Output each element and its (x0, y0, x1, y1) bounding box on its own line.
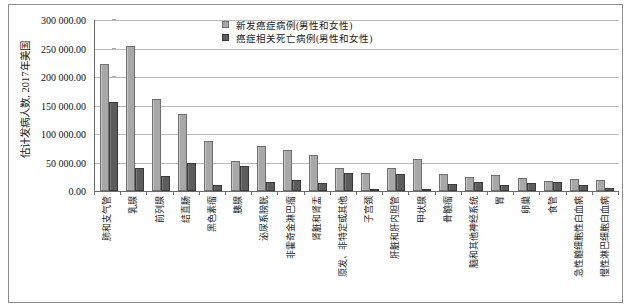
y-axis-tick-label: 150 000.00 (41, 100, 86, 111)
legend-swatch-icon (222, 21, 229, 28)
bar-group (253, 20, 279, 191)
x-axis-category-label: 非霍奇金淋巴瘤 (286, 196, 296, 259)
bar-group (514, 20, 540, 191)
y-axis-tick-label: 0.00 (69, 186, 87, 197)
bar-group (540, 20, 566, 191)
bar-group (592, 20, 618, 191)
bar (387, 168, 396, 191)
x-axis-label-slot: 原发、非特定或其他 (336, 196, 350, 304)
bar (135, 168, 144, 191)
x-axis-category-label: 急性髓细胞性白血病 (574, 196, 584, 277)
bar (518, 178, 527, 191)
bar-groups (95, 20, 619, 191)
x-axis-category-label: 乳腺 (128, 196, 138, 214)
bar (491, 175, 500, 191)
bar (178, 114, 187, 191)
x-axis-label-slot: 子宫颈 (362, 196, 376, 304)
x-axis-category-label: 前列腺 (155, 196, 165, 223)
bar (187, 163, 196, 192)
bar (318, 183, 327, 191)
x-axis-label-slot: 骨髓瘤 (441, 196, 455, 304)
y-axis-tick-label: 50 000.00 (46, 157, 86, 168)
x-axis-label-slot: 肝脏和肝内胆管 (388, 196, 402, 304)
legend-item: 癌症相关死亡病例(男性和女性) (222, 31, 372, 44)
x-axis-category-label: 卵巢 (521, 196, 531, 214)
bar (152, 99, 161, 191)
bar-group (331, 20, 357, 191)
x-axis-tick-mark (173, 191, 174, 195)
bar-group (174, 20, 200, 191)
bar (474, 182, 483, 191)
y-axis-tick-label: 100 000.00 (41, 129, 86, 140)
bar-group (435, 20, 461, 191)
x-axis-category-label: 脑和其他神经系统 (469, 196, 479, 268)
bar (448, 184, 457, 191)
x-axis-tick-mark (513, 191, 514, 195)
x-axis-category-label: 肺和支气管 (102, 196, 112, 241)
bar-group (566, 20, 592, 191)
bar (465, 177, 474, 191)
x-axis-tick-mark (225, 191, 226, 195)
x-axis-tick-mark (539, 191, 540, 195)
x-axis-label-slot: 卵巢 (519, 196, 533, 304)
x-axis-label-slot: 胰腺 (231, 196, 245, 304)
x-axis-category-label: 子宫颈 (364, 196, 374, 223)
x-axis-label-slot: 乳腺 (126, 196, 140, 304)
x-axis-label-slot: 黑色素瘤 (205, 196, 219, 304)
legend-item: 新发癌症病例(男性和女性) (222, 18, 372, 31)
bar (527, 183, 536, 191)
bar-group (409, 20, 435, 191)
bar (570, 179, 579, 191)
bar-group (200, 20, 226, 191)
y-axis-tick-label: 300 000.00 (41, 15, 86, 26)
x-axis-tick-mark (461, 191, 462, 195)
bar (283, 150, 292, 191)
x-axis-category-label: 胰腺 (233, 196, 243, 214)
x-axis-tick-mark (146, 191, 147, 195)
x-axis-label-slot: 食管 (546, 196, 560, 304)
bar (240, 166, 249, 191)
bar (126, 46, 135, 191)
bar-group (96, 20, 122, 191)
bar (396, 174, 405, 191)
bar-group (122, 20, 148, 191)
x-axis-category-label: 原发、非特定或其他 (338, 196, 348, 277)
x-axis-tick-mark (435, 191, 436, 195)
x-axis-category-label: 肾脏和肾盂 (312, 196, 322, 241)
x-axis-tick-mark (382, 191, 383, 195)
bar-group (305, 20, 331, 191)
x-axis-tick-marks (94, 191, 618, 195)
x-axis-category-label: 骨髓瘤 (443, 196, 453, 223)
x-axis-tick-mark (566, 191, 567, 195)
x-axis-category-label: 肝脏和肝内胆管 (390, 196, 400, 259)
x-axis-tick-mark (487, 191, 488, 195)
x-axis-tick-mark (120, 191, 121, 195)
bar (204, 141, 213, 191)
x-axis-category-label: 食管 (548, 196, 558, 214)
x-axis-tick-mark (199, 191, 200, 195)
bar (257, 146, 266, 191)
x-axis-label-slot: 前列腺 (153, 196, 167, 304)
x-axis-category-label: 慢性淋巴细胞白血病 (600, 196, 610, 277)
x-axis-category-label: 胃 (495, 196, 505, 205)
x-axis-category-label: 甲状腺 (417, 196, 427, 223)
bar-group (357, 20, 383, 191)
y-axis-tick-label: 250 000.00 (41, 43, 86, 54)
x-axis-category-label: 结直肠 (181, 196, 191, 223)
x-axis-tick-mark (94, 191, 95, 195)
bar (335, 168, 344, 191)
legend-label: 新发癌症病例(男性和女性) (236, 18, 352, 32)
x-axis-label-slot: 胃 (493, 196, 507, 304)
bar (161, 176, 170, 191)
bar (100, 64, 109, 191)
x-axis-tick-mark (356, 191, 357, 195)
bar-group (148, 20, 174, 191)
x-axis-label-slot: 肺和支气管 (100, 196, 114, 304)
x-axis-tick-mark (251, 191, 252, 195)
x-axis-label-slot: 非霍奇金淋巴瘤 (284, 196, 298, 304)
x-axis-tick-mark (277, 191, 278, 195)
x-axis-category-label: 黑色素瘤 (207, 196, 217, 232)
bar (309, 155, 318, 191)
bar (109, 102, 118, 191)
x-axis-label-slot: 结直肠 (179, 196, 193, 304)
